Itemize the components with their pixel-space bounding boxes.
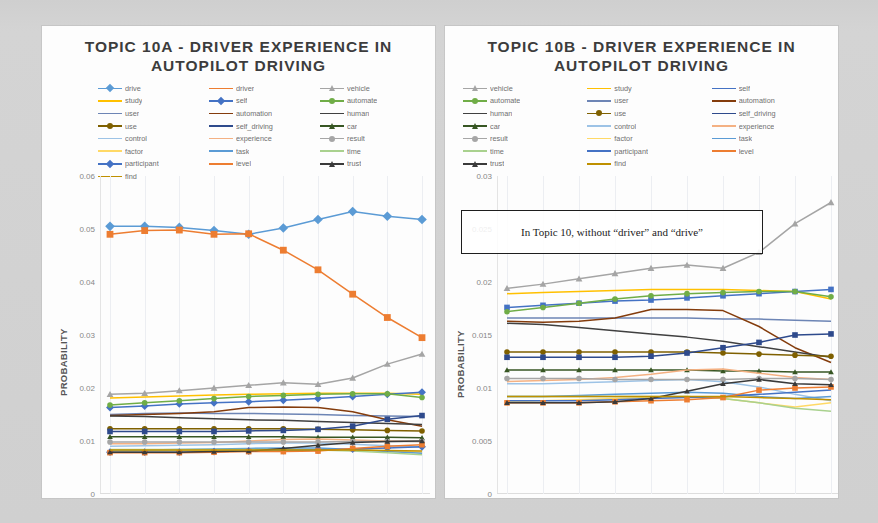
legend-label: factor <box>614 134 632 143</box>
y-axis-title-10a: PROBABILITY <box>58 328 69 396</box>
legend-label: experience <box>236 134 272 143</box>
y-axis-tick-label: 0 <box>91 490 95 499</box>
legend-swatch-icon <box>98 109 122 117</box>
legend-label: control <box>125 134 147 143</box>
legend-label: self_driving <box>236 122 273 131</box>
legend-item-automation[interactable]: automation <box>209 107 316 120</box>
legend-swatch-icon <box>587 160 611 168</box>
legend-item-task[interactable]: task <box>712 132 832 145</box>
legend-item-human[interactable]: human <box>320 107 427 120</box>
legend-item-self[interactable]: self <box>712 82 832 95</box>
legend-item-experience[interactable]: experience <box>712 120 832 133</box>
legend-swatch-icon <box>209 122 233 130</box>
legend-swatch-icon <box>320 109 344 117</box>
chart-panel-topic-10b: TOPIC 10B - DRIVER EXPERIENCE IN AUTOPIL… <box>445 26 838 498</box>
figure-row: TOPIC 10A - DRIVER EXPERIENCE IN AUTOPIL… <box>42 26 838 498</box>
legend-swatch-icon <box>320 97 344 105</box>
legend-item-trust[interactable]: trust <box>320 158 427 171</box>
legend-swatch-icon <box>98 147 122 155</box>
legend-item-self[interactable]: self <box>209 95 316 108</box>
legend-swatch-icon <box>209 97 233 105</box>
legend-item-user[interactable]: user <box>98 107 205 120</box>
legend-label: vehicle <box>490 84 513 93</box>
legend-label: result <box>490 134 508 143</box>
legend-label: use <box>125 122 137 131</box>
legend-label: find <box>614 159 626 168</box>
chart-title-10b: TOPIC 10B - DRIVER EXPERIENCE IN AUTOPIL… <box>445 38 838 76</box>
legend-item-human[interactable]: human <box>463 107 583 120</box>
legend-item-participant[interactable]: participant <box>587 145 707 158</box>
legend-label: automate <box>347 96 377 105</box>
legend-item-task[interactable]: task <box>209 145 316 158</box>
legend-item-use[interactable]: use <box>587 107 707 120</box>
legend-swatch-icon <box>209 135 233 143</box>
legend-item-result[interactable]: result <box>320 132 427 145</box>
legend-swatch-icon <box>587 109 611 117</box>
legend-item-use[interactable]: use <box>98 120 205 133</box>
page-background: TOPIC 10A - DRIVER EXPERIENCE IN AUTOPIL… <box>0 0 878 523</box>
legend-swatch-icon <box>463 135 487 143</box>
legend-swatch-icon <box>463 84 487 92</box>
legend-item-study[interactable]: study <box>587 82 707 95</box>
legend-label: study <box>614 84 631 93</box>
legend-swatch-icon <box>712 135 736 143</box>
legend-item-vehicle[interactable]: vehicle <box>320 82 427 95</box>
legend-item-control[interactable]: control <box>587 120 707 133</box>
legend-label: task <box>739 134 752 143</box>
legend-label: time <box>490 147 504 156</box>
legend-item-time[interactable]: time <box>463 145 583 158</box>
y-axis-tick-label: 0.05 <box>79 225 95 234</box>
chart-title-10a: TOPIC 10A - DRIVER EXPERIENCE IN AUTOPIL… <box>42 38 435 76</box>
legend-swatch-icon <box>209 109 233 117</box>
legend-label: experience <box>739 122 775 131</box>
legend-item-car[interactable]: car <box>320 120 427 133</box>
legend-item-find[interactable]: find <box>587 158 707 171</box>
legend-item-self-driving[interactable]: self_driving <box>712 107 832 120</box>
legend-label: human <box>347 109 369 118</box>
legend-swatch-icon <box>209 147 233 155</box>
legend-item-time[interactable]: time <box>320 145 427 158</box>
legend-item-trust[interactable]: trust <box>463 158 583 171</box>
legend-item-control[interactable]: control <box>98 132 205 145</box>
legend-item-driver[interactable]: driver <box>209 82 316 95</box>
legend-item-automate[interactable]: automate <box>463 95 583 108</box>
legend-item-level[interactable]: level <box>712 145 832 158</box>
legend-item-drive[interactable]: drive <box>98 82 205 95</box>
legend-item-study[interactable]: study <box>98 95 205 108</box>
y-axis-tick-label: 0.03 <box>476 172 492 181</box>
y-axis-tick-label: 0.01 <box>476 384 492 393</box>
legend-label: car <box>347 122 357 131</box>
legend-label: result <box>347 134 365 143</box>
series-car <box>107 434 425 440</box>
legend-swatch-icon <box>712 122 736 130</box>
legend-label: use <box>614 109 626 118</box>
legend-swatch-icon <box>320 122 344 130</box>
legend-swatch-icon <box>98 135 122 143</box>
legend-item-car[interactable]: car <box>463 120 583 133</box>
legend-swatch-icon <box>712 147 736 155</box>
legend-swatch-icon <box>98 160 122 168</box>
legend-label: human <box>490 109 512 118</box>
legend-item-automate[interactable]: automate <box>320 95 427 108</box>
series-driver <box>107 227 426 341</box>
y-axis-tick-label: 0 <box>488 490 492 499</box>
legend-item-factor[interactable]: factor <box>98 145 205 158</box>
legend-item-experience[interactable]: experience <box>209 132 316 145</box>
legend-swatch-icon <box>587 84 611 92</box>
annotation-box: In Topic 10, without “driver” and “drive… <box>461 210 763 254</box>
legend-swatch-icon <box>209 160 233 168</box>
legend-item-result[interactable]: result <box>463 132 583 145</box>
legend-item-factor[interactable]: factor <box>587 132 707 145</box>
plot-area-10a: 2010201120122013201420152016201720182019… <box>100 176 430 494</box>
legend-swatch-icon <box>320 160 344 168</box>
legend-label: user <box>125 109 139 118</box>
legend-swatch-icon <box>587 97 611 105</box>
legend-item-level[interactable]: level <box>209 158 316 171</box>
legend-item-user[interactable]: user <box>587 95 707 108</box>
legend-swatch-icon <box>587 147 611 155</box>
legend-item-vehicle[interactable]: vehicle <box>463 82 583 95</box>
legend-item-self-driving[interactable]: self_driving <box>209 120 316 133</box>
legend-item-participant[interactable]: participant <box>98 158 205 171</box>
chart-panel-topic-10a: TOPIC 10A - DRIVER EXPERIENCE IN AUTOPIL… <box>42 26 435 498</box>
legend-item-automation[interactable]: automation <box>712 95 832 108</box>
